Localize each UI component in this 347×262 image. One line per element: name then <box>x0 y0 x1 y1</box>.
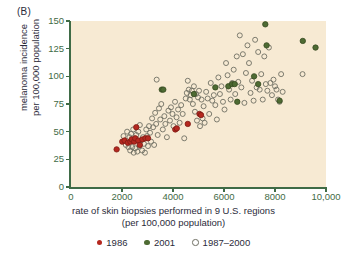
data-point <box>269 93 274 98</box>
data-point <box>214 117 219 122</box>
y-tick-mark <box>66 103 70 104</box>
legend-marker-filled-circle-red-icon <box>97 240 103 246</box>
data-point <box>160 127 165 132</box>
data-point <box>271 77 276 82</box>
legend-item-2001[interactable]: 2001 <box>144 237 175 248</box>
data-point <box>268 80 273 85</box>
x-tick-mark <box>121 188 122 192</box>
data-point <box>225 73 230 78</box>
legend-item-1986[interactable]: 1986 <box>97 237 128 248</box>
x-tick-mark <box>223 188 224 192</box>
data-point <box>260 97 265 102</box>
data-point <box>246 61 251 66</box>
y-tick-label: 50 <box>42 127 64 137</box>
x-tick-mark <box>325 188 326 192</box>
data-point <box>243 71 248 76</box>
data-point <box>163 121 168 126</box>
data-point <box>232 81 237 86</box>
data-point <box>179 103 184 108</box>
data-point <box>279 72 284 77</box>
legend-marker-open-circle-icon <box>192 239 199 246</box>
data-point <box>194 118 199 123</box>
data-point <box>235 99 240 104</box>
y-axis-title-line1: melanoma incidence <box>18 24 29 111</box>
y-tick-mark <box>66 20 70 21</box>
data-point <box>265 88 270 93</box>
data-point <box>263 22 268 27</box>
y-tick-mark <box>66 76 70 77</box>
data-point <box>176 107 181 112</box>
data-point <box>219 84 224 89</box>
x-axis-title-line1: rate of skin biopsies performed in 9 U.S… <box>72 205 275 216</box>
x-tick-mark <box>172 188 173 192</box>
data-point <box>239 85 244 90</box>
y-axis-title: melanoma incidence per 100,000 populatio… <box>18 0 41 148</box>
plot-area <box>71 21 326 187</box>
x-axis-title: rate of skin biopsies performed in 9 U.S… <box>0 205 347 228</box>
data-point <box>174 126 179 131</box>
y-tick-mark <box>66 131 70 132</box>
data-point <box>233 92 238 97</box>
x-tick-mark <box>274 188 275 192</box>
data-point <box>191 84 196 89</box>
data-point <box>174 115 179 120</box>
data-point <box>211 93 216 98</box>
x-tick-label: 8000 <box>264 192 285 202</box>
series-2001 <box>159 22 318 105</box>
data-point <box>152 142 157 147</box>
data-point <box>253 37 258 42</box>
y-axis-title-line2: per 100,000 population <box>29 0 41 148</box>
data-point <box>201 104 206 109</box>
data-point <box>114 147 119 152</box>
data-point <box>224 61 229 66</box>
x-tick-label: 4000 <box>162 192 183 202</box>
data-point <box>248 90 253 95</box>
data-point <box>145 136 150 141</box>
legend-label: 2001 <box>154 237 175 248</box>
data-point <box>191 91 196 96</box>
data-point <box>161 87 166 92</box>
data-point <box>231 67 236 72</box>
data-point <box>277 98 282 103</box>
scatter-plot-canvas <box>71 21 326 187</box>
x-axis-title-line2: (per 100,000 population) <box>0 217 347 229</box>
y-tick-mark <box>66 186 70 187</box>
data-point <box>242 100 247 105</box>
data-point <box>154 121 159 126</box>
data-point <box>164 135 169 140</box>
data-point <box>153 110 158 115</box>
figure-panel-b: (B) 0255075100125150 0200040006000800010… <box>0 0 347 262</box>
legend-marker-filled-circle-green-icon <box>144 240 150 246</box>
data-point <box>134 125 139 130</box>
data-point <box>213 103 218 108</box>
data-point <box>148 130 153 135</box>
data-point <box>255 81 260 86</box>
data-point <box>234 54 239 59</box>
data-point <box>245 43 250 48</box>
x-tick-label: 0 <box>68 192 73 202</box>
legend-label: 1986 <box>106 237 127 248</box>
y-tick-label: 150 <box>42 16 64 26</box>
x-tick-label: 2000 <box>111 192 132 202</box>
data-point <box>300 38 305 43</box>
data-point <box>150 116 155 121</box>
data-point <box>154 77 159 82</box>
data-point <box>173 99 178 104</box>
y-tick-mark <box>66 48 70 49</box>
data-point <box>251 74 256 79</box>
data-point <box>202 120 207 125</box>
y-tick-label: 125 <box>42 44 64 54</box>
data-point <box>300 72 305 77</box>
data-point <box>162 114 167 119</box>
data-point <box>220 99 225 104</box>
legend-item-1987-2000[interactable]: 1987–2000 <box>192 237 250 248</box>
data-point <box>167 118 172 123</box>
data-point <box>204 89 209 94</box>
data-point <box>137 142 142 147</box>
y-tick-label: 25 <box>42 154 64 164</box>
data-point <box>228 97 233 102</box>
data-point <box>168 105 173 110</box>
data-point <box>146 144 151 149</box>
data-point <box>180 111 185 116</box>
data-point <box>197 88 202 93</box>
